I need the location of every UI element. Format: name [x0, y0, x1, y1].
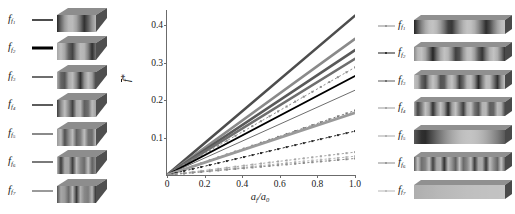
right-series-marker-0 — [385, 25, 387, 27]
right-mode-label-4: ff5 — [398, 129, 405, 143]
right-mode-row: ff4 — [376, 95, 515, 122]
y-tick-1 — [164, 100, 167, 101]
right-label-sub-3: f4 — [401, 106, 405, 113]
left-mode-label-0: ff1 — [8, 13, 15, 27]
left-mode-shape-render-6 — [57, 179, 107, 203]
right-label-sub-1: f2 — [401, 51, 405, 58]
y-tick-label-0: 0.1 — [151, 133, 163, 143]
left-series-swatch-1 — [32, 47, 53, 50]
left-mode-shape-render-2 — [57, 65, 107, 89]
left-label-sub-1: f2 — [11, 46, 15, 53]
left-label-sub-3: f4 — [11, 103, 15, 110]
right-mode-label-0: ff1 — [398, 19, 405, 33]
x-tick-label-2: 0.4 — [236, 179, 248, 189]
left-mode-row: ff1 — [0, 6, 118, 33]
left-label-sub-6: f7 — [11, 188, 15, 195]
series-lines — [167, 10, 355, 175]
left-mode-shape-render-4 — [57, 122, 107, 146]
right-label-sub-0: f1 — [401, 23, 405, 30]
x-tick-label-3: 0.6 — [274, 179, 286, 189]
right-mode-shape-render-1 — [414, 42, 512, 64]
y-tick-0 — [164, 138, 167, 139]
left-series-swatch-5 — [32, 161, 53, 163]
left-mode-label-3: ff4 — [8, 98, 15, 112]
x-tick-label-1: 0.2 — [199, 179, 211, 189]
right-mode-row: ff2 — [376, 40, 515, 67]
right-mode-row: ff7 — [376, 177, 515, 204]
left-mode-row: ff5 — [0, 120, 118, 147]
left-mode-shape-render-5 — [57, 150, 107, 174]
right-mode-shape-render-6 — [414, 180, 512, 202]
left-mode-row: ff7 — [0, 177, 118, 204]
right-series-marker-6 — [385, 190, 387, 192]
left-mode-label-4: ff5 — [8, 127, 15, 141]
y-axis-symbol: f — [122, 79, 133, 82]
left-mode-shape-panel: ff1ff2ff3ff4ff5ff6ff7 — [0, 0, 118, 214]
right-label-sub-6: f7 — [401, 188, 405, 195]
left-label-sub-0: f1 — [11, 17, 15, 24]
right-label-sub-5: f6 — [401, 161, 405, 168]
x-tick-1 — [205, 175, 206, 178]
right-series-marker-4 — [385, 135, 387, 137]
x-tick-4 — [317, 175, 318, 178]
right-mode-row: ff5 — [376, 122, 515, 149]
left-series-swatch-0 — [32, 19, 53, 21]
y-axis-title: f* — [120, 74, 132, 82]
right-label-sub-4: f5 — [401, 133, 405, 140]
y-tick-label-1: 0.2 — [151, 95, 163, 105]
right-series-marker-3 — [385, 107, 387, 109]
left-series-swatch-4 — [32, 133, 53, 135]
left-mode-label-5: ff6 — [8, 155, 15, 169]
x-tick-5 — [355, 175, 356, 178]
x-axis-title: af/a0 — [166, 192, 354, 203]
x-axis-den-sub: 0 — [266, 196, 269, 203]
left-mode-shape-render-3 — [57, 93, 107, 117]
right-mode-label-6: ff7 — [398, 184, 405, 198]
y-tick-label-3: 0.4 — [151, 20, 163, 30]
right-mode-label-1: ff2 — [398, 46, 405, 60]
y-tick-label-2: 0.3 — [151, 58, 163, 68]
left-mode-label-2: ff3 — [8, 70, 15, 84]
right-mode-shape-render-4 — [414, 125, 512, 147]
line-chart: 0.10.20.30.400.20.40.60.81.0 af/a0 f* — [122, 4, 374, 210]
left-series-swatch-2 — [32, 76, 53, 78]
left-mode-row: ff2 — [0, 35, 118, 62]
left-mode-row: ff6 — [0, 149, 118, 176]
x-tick-label-0: 0 — [165, 179, 170, 189]
right-series-marker-2 — [385, 80, 387, 82]
left-label-sub-5: f6 — [11, 160, 15, 167]
y-tick-2 — [164, 63, 167, 64]
plot-area: 0.10.20.30.400.20.40.60.81.0 — [166, 10, 355, 176]
x-tick-3 — [280, 175, 281, 178]
right-mode-label-5: ff6 — [398, 156, 405, 170]
right-series-marker-5 — [385, 162, 387, 164]
x-tick-2 — [242, 175, 243, 178]
right-mode-row: ff1 — [376, 12, 515, 39]
left-series-swatch-6 — [32, 190, 53, 192]
y-tick-3 — [164, 25, 167, 26]
left-label-sub-4: f5 — [11, 131, 15, 138]
right-mode-label-3: ff4 — [398, 101, 405, 115]
left-mode-label-6: ff7 — [8, 184, 15, 198]
figure-root: ff1ff2ff3ff4ff5ff6ff7 0.10.20.30.400.20.… — [0, 0, 515, 214]
right-mode-row: ff3 — [376, 67, 515, 94]
right-mode-row: ff6 — [376, 150, 515, 177]
right-label-sub-2: f3 — [401, 78, 405, 85]
left-mode-row: ff4 — [0, 92, 118, 119]
right-mode-shape-panel: ff1ff2ff3ff4ff5ff6ff7 — [376, 0, 515, 214]
right-mode-shape-render-5 — [414, 152, 512, 174]
left-label-sub-2: f3 — [11, 74, 15, 81]
left-mode-shape-render-1 — [57, 36, 107, 60]
right-mode-shape-render-2 — [414, 70, 512, 92]
x-tick-label-5: 1.0 — [349, 179, 361, 189]
x-tick-0 — [167, 175, 168, 178]
right-mode-shape-render-3 — [414, 97, 512, 119]
left-series-swatch-3 — [32, 104, 53, 106]
right-series-marker-1 — [385, 52, 387, 54]
left-mode-shape-render-0 — [57, 8, 107, 32]
right-mode-label-2: ff3 — [398, 74, 405, 88]
left-mode-row: ff3 — [0, 63, 118, 90]
right-mode-shape-render-0 — [414, 15, 512, 37]
x-tick-label-4: 0.8 — [311, 179, 323, 189]
left-mode-label-1: ff2 — [8, 41, 15, 55]
